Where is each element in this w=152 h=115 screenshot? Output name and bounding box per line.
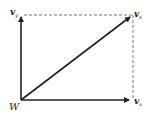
vertical-vector-label: vy xyxy=(10,7,18,19)
resultant-vector-label: vs xyxy=(134,9,142,20)
horizontal-vector-label: vx xyxy=(134,96,142,107)
origin-label: W xyxy=(9,101,20,112)
vector-diagram: vy vs vx W xyxy=(0,0,152,115)
resultant-vector-arrow xyxy=(21,17,130,100)
